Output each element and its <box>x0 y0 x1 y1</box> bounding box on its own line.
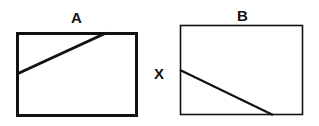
panel-a-diagonal-line <box>17 33 106 74</box>
side-x-label: X <box>154 66 164 81</box>
panel-a <box>17 33 137 116</box>
panel-b-diagonal-line <box>180 70 273 115</box>
panel-b-rectangle <box>181 26 303 115</box>
diagram-canvas <box>0 0 319 126</box>
panel-a-label: A <box>71 10 82 25</box>
panel-b <box>180 26 303 116</box>
panel-b-label: B <box>237 8 248 23</box>
